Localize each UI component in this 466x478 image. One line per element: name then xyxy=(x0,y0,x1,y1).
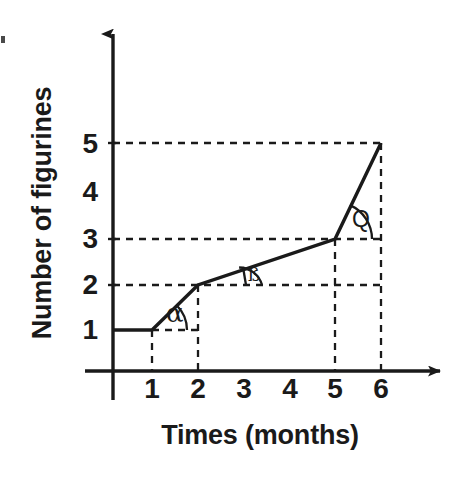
y-axis-title: Number of figurines xyxy=(14,58,70,368)
angle-label-alpha: α xyxy=(166,300,184,326)
chart-figure: Number of figurines Times (months) 5 4 3… xyxy=(0,0,466,478)
axes-group xyxy=(85,34,440,400)
x-axis-title: Times (months) xyxy=(100,420,420,451)
angle-label-beta: ß xyxy=(248,266,260,284)
dashed-guide-lines xyxy=(113,143,381,371)
y-tick-label-1: 1 xyxy=(72,316,98,344)
data-line-figurines xyxy=(113,143,381,330)
y-tick-label-4: 4 xyxy=(72,178,98,206)
x-tick-label-1: 1 xyxy=(137,375,167,403)
x-tick-label-2: 2 xyxy=(183,375,213,403)
x-tick-label-3: 3 xyxy=(229,375,259,403)
x-tick-label-6: 6 xyxy=(366,375,396,403)
y-tick-label-3: 3 xyxy=(72,225,98,253)
y-tick-label-5: 5 xyxy=(72,130,98,158)
x-tick-label-5: 5 xyxy=(320,375,350,403)
y-tick-label-2: 2 xyxy=(72,271,98,299)
x-tick-label-4: 4 xyxy=(275,375,305,403)
angle-label-q: Q xyxy=(352,208,370,231)
